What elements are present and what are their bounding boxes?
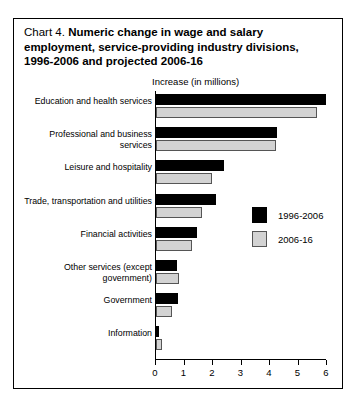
bar-series2 bbox=[156, 107, 317, 118]
chart-title-line1: Numeric change in wage and salary bbox=[68, 26, 263, 38]
x-tick-label: 5 bbox=[295, 367, 300, 378]
chart-frame: Chart 4. Numeric change in wage and sala… bbox=[13, 18, 343, 389]
bar-series1 bbox=[156, 326, 159, 337]
bar-series2 bbox=[156, 273, 179, 284]
bar-series1 bbox=[156, 260, 177, 271]
x-tick-label: 0 bbox=[152, 367, 157, 378]
category-label: Financial activities bbox=[24, 229, 152, 240]
category-label: Professional and business services bbox=[24, 129, 152, 150]
x-tick bbox=[184, 360, 185, 365]
category-label: Other services (except government) bbox=[24, 262, 152, 283]
category-label: Leisure and hospitality bbox=[24, 162, 152, 173]
x-tick-label: 2 bbox=[209, 367, 214, 378]
legend-label-2006-16: 2006-16 bbox=[278, 234, 313, 245]
x-tick-label: 3 bbox=[238, 367, 243, 378]
legend-item-2006-16: 2006-16 bbox=[252, 227, 344, 251]
bar-series2 bbox=[156, 207, 202, 218]
category-label: Education and health services bbox=[24, 96, 152, 107]
x-tick bbox=[155, 360, 156, 365]
x-tick bbox=[269, 360, 270, 365]
bar-series1 bbox=[156, 293, 178, 304]
legend-item-1996-2006: 1996-2006 bbox=[252, 203, 344, 227]
bar-series1 bbox=[156, 227, 197, 238]
x-tick bbox=[326, 360, 327, 365]
category-label: Trade, transportation and utilities bbox=[24, 196, 152, 207]
bar-series2 bbox=[156, 240, 192, 251]
bar-series2 bbox=[156, 339, 162, 350]
category-label: Information bbox=[24, 328, 152, 339]
x-tick-label: 1 bbox=[181, 367, 186, 378]
chart-title-line2: employment, service-providing industry d… bbox=[24, 41, 299, 53]
legend: 1996-2006 2006-16 bbox=[252, 203, 344, 251]
bar-series2 bbox=[156, 140, 276, 151]
legend-swatch-icon-1996-2006 bbox=[252, 207, 267, 223]
chart-title: Chart 4. Numeric change in wage and sala… bbox=[24, 25, 336, 69]
x-axis-title: Increase (in millions) bbox=[152, 76, 239, 87]
bar-series2 bbox=[156, 173, 212, 184]
x-tick bbox=[298, 360, 299, 365]
chart-title-line3: 1996-2006 and projected 2006-16 bbox=[24, 55, 203, 67]
x-tick-label: 6 bbox=[323, 367, 328, 378]
legend-label-1996-2006: 1996-2006 bbox=[278, 210, 323, 221]
x-tick bbox=[212, 360, 213, 365]
category-label: Government bbox=[24, 295, 152, 306]
bar-series2 bbox=[156, 306, 172, 317]
bar-series1 bbox=[156, 160, 224, 171]
x-tick bbox=[241, 360, 242, 365]
x-tick-label: 4 bbox=[266, 367, 271, 378]
legend-swatch-icon-2006-16 bbox=[252, 231, 267, 247]
bar-series1 bbox=[156, 194, 216, 205]
chart-title-lead: Chart 4. bbox=[24, 26, 65, 38]
bar-series1 bbox=[156, 94, 326, 105]
bar-series1 bbox=[156, 127, 277, 138]
